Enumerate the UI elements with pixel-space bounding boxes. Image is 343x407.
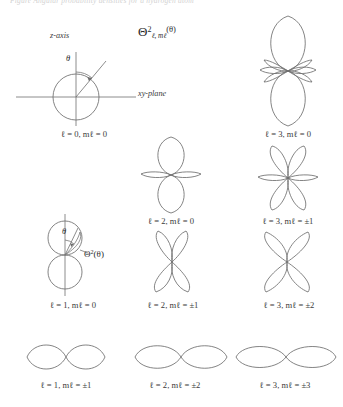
caption-l1-m1: ℓ = 1, mℓ = ±1 xyxy=(14,380,118,390)
l3-m3-lobes xyxy=(236,347,336,368)
l3-m0-lobes xyxy=(260,16,316,126)
caption-l3-m1: ℓ = 3, mℓ = ±1 xyxy=(236,216,340,226)
title-theta-argument: (θ) xyxy=(166,24,176,34)
panel-l0-m0: z-axis θ xy-plane xyxy=(14,34,154,129)
clipped-header-text: Figure Angular probability densities for… xyxy=(10,0,340,6)
caption-l3-m0: ℓ = 3, mℓ = 0 xyxy=(236,129,340,139)
caption-l2-m2: ℓ = 2, mℓ = ±2 xyxy=(122,380,228,390)
xy-plane-label: xy-plane xyxy=(138,89,166,98)
panel-l3-m3 xyxy=(232,339,340,375)
caption-l2-m0: ℓ = 2, mℓ = 0 xyxy=(118,216,224,226)
caption-l2-m1: ℓ = 2, mℓ = ±1 xyxy=(118,300,228,310)
l1-m0-theta-label: θ xyxy=(62,226,66,236)
panel-l2-m1 xyxy=(136,228,208,296)
l2-m0-lobes xyxy=(141,137,201,213)
theta-sq-arg: (θ) xyxy=(94,249,104,259)
theta-squared-function-label: Θ2(θ) xyxy=(84,248,104,259)
panel-l1-m1 xyxy=(18,335,114,379)
l1-m1-lobes xyxy=(27,345,105,369)
panel-l1-m0: θ Θ2(θ) xyxy=(28,210,124,298)
l3-m2-lobes xyxy=(265,232,310,292)
panel-l2-m2 xyxy=(130,337,232,377)
l1-m0-theta-arc xyxy=(65,240,74,244)
panel-l3-m2 xyxy=(248,228,326,296)
panel-l2-m0 xyxy=(132,136,210,214)
theta-angle-label: θ xyxy=(66,53,70,63)
panel-l3-m0 xyxy=(240,12,336,130)
caption-l3-m3: ℓ = 3, mℓ = ±3 xyxy=(230,380,340,390)
figure-root: Figure Angular probability densities for… xyxy=(0,0,343,407)
z-axis-label: z-axis xyxy=(50,31,69,40)
panel-l3-m1 xyxy=(246,142,330,214)
l3-m1-lobes xyxy=(258,146,318,210)
caption-l3-m2: ℓ = 3, mℓ = ±2 xyxy=(236,300,342,310)
l2-m2-lobes xyxy=(135,346,227,369)
l2-m1-lobes xyxy=(154,231,189,292)
